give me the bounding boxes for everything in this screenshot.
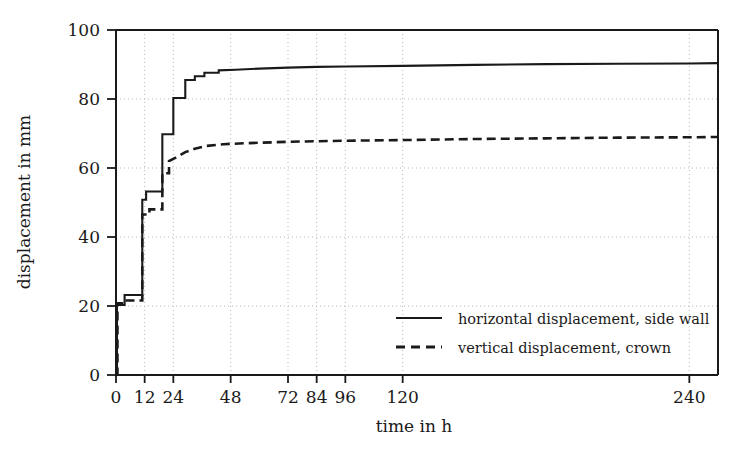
y-tick-label: 100	[68, 20, 100, 40]
legend-label: vertical displacement, crown	[457, 340, 671, 356]
y-tick-label: 20	[78, 296, 100, 316]
chart-figure: 0122448728496120240 020406080100 horizon…	[0, 0, 752, 458]
y-tick-label: 0	[89, 365, 100, 385]
legend-label: horizontal displacement, side wall	[458, 311, 710, 327]
y-tick-label: 40	[78, 227, 100, 247]
y-axis-title: displacement in mm	[14, 115, 34, 289]
y-tick-label: 60	[78, 158, 100, 178]
displacement-vs-time-chart: 0122448728496120240 020406080100 horizon…	[0, 0, 752, 458]
x-tick-label: 120	[386, 387, 418, 407]
x-axis-title: time in h	[376, 416, 453, 436]
x-tick-label: 48	[220, 387, 242, 407]
x-tick-label: 72	[277, 387, 299, 407]
x-tick-label: 0	[111, 387, 122, 407]
x-tick-label: 240	[673, 387, 705, 407]
y-tick-label: 80	[78, 89, 100, 109]
x-tick-label: 96	[335, 387, 357, 407]
x-tick-label: 84	[306, 387, 328, 407]
x-tick-label: 12	[134, 387, 156, 407]
x-tick-label: 24	[163, 387, 185, 407]
